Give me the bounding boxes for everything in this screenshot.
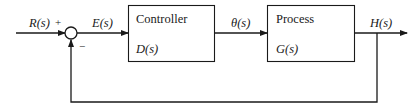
error-signal-label: E(s) — [92, 17, 113, 30]
output-signal-label: H(s) — [370, 17, 392, 30]
process-title: Process — [276, 13, 314, 26]
minus-sign: − — [79, 41, 85, 52]
controller-transfer-function: D(s) — [136, 43, 158, 56]
summing-junction — [65, 27, 77, 39]
control-signal-label: θ(s) — [231, 17, 250, 30]
controller-title: Controller — [136, 13, 187, 26]
process-transfer-function: G(s) — [276, 43, 298, 56]
plus-sign: + — [55, 17, 61, 28]
diagram-canvas — [0, 0, 420, 110]
input-signal-label: R(s) — [29, 17, 50, 30]
